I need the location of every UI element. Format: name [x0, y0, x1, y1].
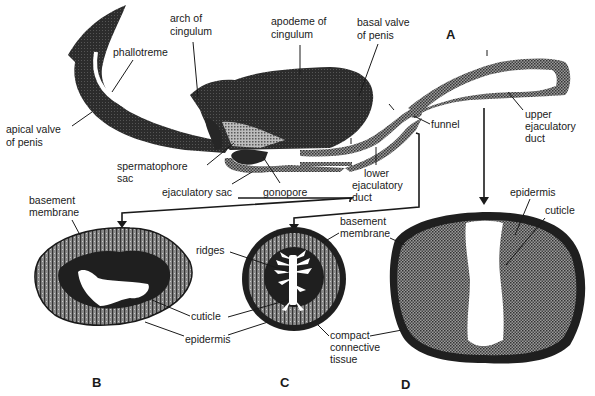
label-ejaculatory-sac: ejaculatory sac	[162, 186, 232, 198]
upper-ejaculatory-duct-shape	[408, 59, 570, 114]
label-lower-duct-2: ejaculatory	[352, 179, 404, 191]
b-label-cuticle: cuticle	[191, 310, 221, 322]
label-upper-duct-1: upper	[525, 108, 552, 120]
panel-d-section: epidermis cuticle D	[390, 186, 585, 392]
c-label-ridges: ridges	[196, 244, 225, 256]
anatomy-figure: A arch of cingulum apodeme of cingulum b…	[0, 0, 595, 396]
label-basal-valve-1: basal valve	[357, 16, 410, 28]
label-arch-of-cingulum-2: cingulum	[170, 25, 212, 37]
c-leader-compact	[318, 325, 329, 336]
label-upper-duct-2: ejaculatory	[525, 120, 577, 132]
panel-c-section: ridges basement membrane compact connect…	[196, 215, 402, 390]
label-gonopore: gonopore	[263, 186, 308, 198]
label-apodeme-1: apodeme of	[271, 15, 327, 27]
label-lower-duct-3: duct	[352, 191, 372, 203]
leader-ejaculatory-sac	[232, 172, 252, 184]
panel-a-organ	[68, 5, 570, 173]
label-upper-duct-3: duct	[525, 132, 545, 144]
label-apical-valve-2: of penis	[6, 136, 43, 148]
panel-label-a: A	[446, 27, 456, 42]
b-label-epidermis: epidermis	[185, 333, 231, 345]
arrowhead-b	[117, 221, 127, 228]
d-label-epidermis: epidermis	[510, 186, 556, 198]
leader-arch	[193, 42, 198, 97]
b-leader-basement	[72, 220, 80, 235]
leader-apical-valve	[72, 112, 92, 126]
panel-label-c: C	[280, 375, 290, 390]
label-lower-duct-1: lower	[364, 167, 390, 179]
lower-tube-short	[300, 162, 352, 166]
label-funnel: funnel	[431, 118, 460, 130]
d-label-cuticle: cuticle	[545, 204, 575, 216]
c-label-compact-1: compact	[330, 329, 370, 341]
label-phallotreme: phallotreme	[113, 46, 168, 58]
d-leader-compact	[370, 330, 402, 336]
label-apical-valve-1: apical valve	[6, 123, 61, 135]
ejaculatory-sac-shape	[231, 149, 268, 164]
c-leader-epidermis	[228, 322, 268, 335]
panel-b-section: basement membrane cuticle epidermis B	[29, 194, 231, 390]
panel-label-d: D	[401, 377, 410, 392]
label-basal-valve-2: of penis	[357, 29, 394, 41]
tick-mark	[389, 104, 394, 110]
label-spermatophore-1: spermatophore	[117, 160, 188, 172]
d-lumen	[465, 221, 503, 346]
panel-label-b: B	[92, 375, 101, 390]
c-label-basement-2: membrane	[340, 227, 390, 239]
c-label-basement-1: basement	[340, 215, 386, 227]
arrow-to-b	[122, 198, 352, 222]
leader-phallotreme	[112, 60, 133, 92]
label-spermatophore-2: sac	[117, 172, 133, 184]
c-label-compact-3: tissue	[330, 353, 358, 365]
label-arch-of-cingulum-1: arch of	[170, 12, 202, 24]
b-label-basement-2: membrane	[29, 206, 79, 218]
label-apodeme-2: cingulum	[271, 28, 313, 40]
arrowhead-d	[479, 197, 489, 205]
c-label-compact-2: connective	[330, 341, 380, 353]
b-leader-epidermis	[145, 322, 184, 336]
b-label-basement-1: basement	[29, 194, 75, 206]
